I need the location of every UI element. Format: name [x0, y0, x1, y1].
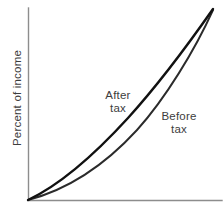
- curve-label-before-tax-line2: tax: [151, 123, 207, 136]
- curve-label-after-tax-line2: tax: [92, 102, 144, 115]
- curve-label-after-tax-line1: After: [105, 89, 130, 101]
- curve-label-before-tax-line1: Before: [161, 110, 196, 122]
- curve-label-before-tax: Before tax: [151, 110, 207, 136]
- y-axis-title: Percent of income: [11, 38, 23, 158]
- lorenz-curve-figure: Percent of income After tax Before tax: [0, 0, 224, 215]
- curve-label-after-tax: After tax: [92, 89, 144, 115]
